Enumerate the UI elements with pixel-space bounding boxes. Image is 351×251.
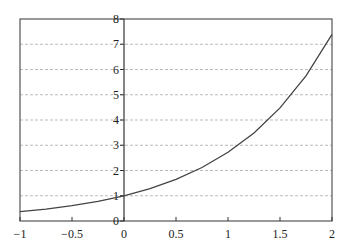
x-tick-label: −1	[14, 227, 27, 241]
y-tick-label: 4	[113, 113, 119, 127]
data-line-exp	[20, 34, 332, 211]
y-gridlines	[20, 44, 332, 196]
y-tick-label: 5	[113, 88, 119, 102]
y-tick-label: 0	[113, 214, 119, 228]
x-tick-label: 2	[329, 227, 335, 241]
x-tick-label: 0	[121, 227, 127, 241]
y-tick-label: 6	[113, 63, 119, 77]
x-tick-label: −0.5	[61, 227, 83, 241]
x-tick-label: 1	[225, 227, 231, 241]
y-tick-label: 1	[113, 189, 119, 203]
chart: 012345678 −1−0.500.511.52	[0, 0, 351, 251]
y-tick-label: 7	[113, 37, 119, 51]
x-tick-label: 0.5	[169, 227, 184, 241]
y-tick-label: 8	[113, 12, 119, 26]
x-tick-label: 1.5	[273, 227, 288, 241]
y-tick-label: 2	[113, 164, 119, 178]
y-tick-label: 3	[113, 138, 119, 152]
